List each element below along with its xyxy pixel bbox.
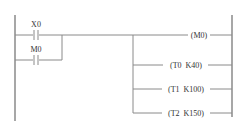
- t2-timer-label: (T2 K150): [168, 109, 204, 118]
- x0-contact-label: X0: [31, 20, 41, 29]
- m0-coil-label: (M0): [191, 31, 208, 40]
- m0-contact-label: M0: [30, 45, 41, 54]
- ladder-diagram: X0 M0 (M0) (T0 K40) (T1 K100) (T2 K150): [0, 0, 245, 129]
- t1-timer-label: (T1 K100): [168, 85, 204, 94]
- t0-timer-label: (T0 K40): [170, 61, 202, 70]
